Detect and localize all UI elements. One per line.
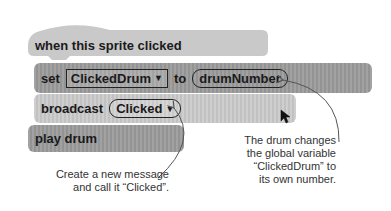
chevron-down-icon: ▼: [154, 73, 163, 83]
note-line: the global variable: [240, 147, 336, 160]
note-line: “ClickedDrum” to: [240, 160, 336, 173]
play-drum-block[interactable]: play drum: [28, 125, 184, 152]
broadcast-keyword: broadcast: [41, 101, 103, 116]
hat-block-when-sprite-clicked[interactable]: when this sprite clicked: [28, 34, 268, 56]
variable-dropdown[interactable]: ClickedDrum ▼: [66, 69, 168, 88]
set-keyword: set: [41, 71, 60, 86]
value-reporter-drumnumber[interactable]: drumNumber: [192, 69, 288, 88]
chevron-down-icon: ▼: [165, 104, 174, 114]
note-drum-changes-variable: The drum changes the global variable “Cl…: [240, 134, 336, 186]
note-create-message: Create a new message and call it “Clicke…: [50, 168, 169, 194]
note-line: Create a new message: [50, 168, 169, 181]
variable-name: ClickedDrum: [71, 71, 151, 86]
note-line: The drum changes: [240, 134, 336, 147]
set-variable-block[interactable]: set ClickedDrum ▼ to drumNumber: [34, 63, 372, 93]
broadcast-block[interactable]: broadcast Clicked ▼: [34, 94, 296, 123]
message-name: Clicked: [116, 101, 162, 116]
play-drum-label: play drum: [35, 131, 97, 146]
script-diagram: when this sprite clicked set ClickedDrum…: [0, 0, 391, 211]
note-line: and call it “Clicked”.: [50, 181, 169, 194]
note-line: its own number.: [240, 173, 336, 186]
hat-block-label: when this sprite clicked: [35, 38, 182, 53]
to-keyword: to: [174, 71, 186, 86]
message-dropdown[interactable]: Clicked ▼: [109, 99, 181, 118]
